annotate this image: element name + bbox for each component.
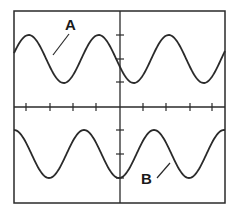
trace-b-label: B [141, 170, 152, 187]
trace-b-leader-line [157, 163, 170, 178]
oscilloscope-screen: A B [0, 0, 236, 213]
trace-a-label: A [65, 16, 76, 33]
trace-a-leader-line [53, 34, 69, 55]
